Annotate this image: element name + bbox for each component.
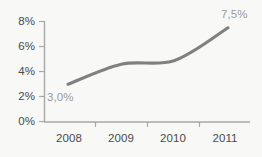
y-axis-label-8: 8% xyxy=(1,16,35,28)
x-axis-label-2010: 2010 xyxy=(150,133,196,145)
y-axis-label-6: 6% xyxy=(1,41,35,53)
line-chart: 8% 6% 4% 2% 0% 2008 2009 2010 2011 3,0% … xyxy=(0,0,262,157)
y-axis-label-0: 0% xyxy=(1,116,35,128)
x-axis-label-2011: 2011 xyxy=(202,133,248,145)
data-label-end: 7,5% xyxy=(221,9,248,21)
x-axis-label-2008: 2008 xyxy=(46,133,92,145)
y-axis-ticks xyxy=(39,22,45,122)
data-label-start: 3,0% xyxy=(47,92,74,104)
x-axis-ticks xyxy=(96,122,200,127)
y-axis-label-2: 2% xyxy=(1,91,35,103)
x-axis-label-2009: 2009 xyxy=(98,133,144,145)
y-axis-label-4: 4% xyxy=(1,66,35,78)
data-series-line xyxy=(68,28,228,85)
